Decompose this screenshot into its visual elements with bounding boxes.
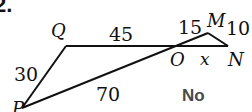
vertex-p-label: P xyxy=(12,100,24,112)
answer-text: No xyxy=(182,87,205,104)
vertex-n-label: N xyxy=(228,51,244,69)
diagram-canvas: 2. Q P O M N 45 30 70 15 10 x No xyxy=(0,0,252,112)
segment-on-length: x xyxy=(200,51,210,68)
segment-om-length: 15 xyxy=(178,18,202,37)
problem-number: 2. xyxy=(0,0,12,16)
segment-mn xyxy=(208,33,228,46)
segment-po-length: 70 xyxy=(96,85,120,104)
vertex-m-label: M xyxy=(207,12,225,30)
segment-pq-length: 30 xyxy=(14,65,38,84)
segment-qo-length: 45 xyxy=(109,25,133,44)
vertex-o-label: O xyxy=(170,51,185,69)
segment-mn-length: 10 xyxy=(226,19,250,38)
vertex-q-label: Q xyxy=(51,22,66,40)
